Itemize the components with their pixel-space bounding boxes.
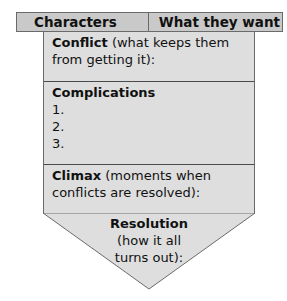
plot-body: Conflict (what keeps them from getting i… <box>43 32 255 214</box>
resolution-section: Resolution (how it all turns out): <box>99 215 199 266</box>
climax-title: Climax <box>52 168 101 183</box>
complications-title: Complications <box>52 84 246 101</box>
climax-section: Climax (moments when conflicts are resol… <box>44 164 254 214</box>
resolution-title: Resolution <box>99 215 199 232</box>
header-row: Characters What they want <box>16 12 283 32</box>
resolution-line-1: (how it all <box>99 232 199 249</box>
conflict-section: Conflict (what keeps them from getting i… <box>44 32 254 81</box>
what-they-want-header: What they want <box>149 13 282 31</box>
complication-item-3: 3. <box>52 135 246 152</box>
complication-item-1: 1. <box>52 101 246 118</box>
resolution-line-2: turns out): <box>99 249 199 266</box>
characters-header: Characters <box>17 13 149 31</box>
conflict-title: Conflict <box>52 35 108 50</box>
complications-section: Complications 1. 2. 3. <box>44 81 254 164</box>
complication-item-2: 2. <box>52 118 246 135</box>
